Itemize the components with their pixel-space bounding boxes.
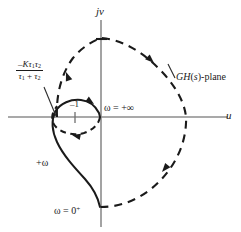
gh-plane-label: GH(s)-plane	[176, 72, 226, 82]
omega-positive-label: +ω	[36, 158, 48, 168]
arrowhead-arc-lower-right	[159, 163, 170, 174]
crossing-denominator-tau1-sub: 1	[22, 76, 25, 82]
crossing-denominator-tau2-sub: 2	[38, 76, 41, 82]
crossing-numerator: –Kτ1τ2	[16, 60, 43, 71]
crossing-numerator-tau2-sub: 2	[38, 63, 41, 69]
dashed-inner-loop	[52, 106, 100, 134]
nyquist-plot-canvas	[0, 0, 241, 232]
omega-zero-plus-text: ω = 0	[54, 205, 76, 216]
horizontal-axis-label: u	[226, 110, 232, 121]
gh-plane-suffix: -plane	[201, 71, 226, 82]
gh-plane-prefix: GH	[176, 71, 190, 82]
plane-leader-line	[168, 64, 175, 78]
solid-omega-branch	[53, 100, 100, 207]
omega-zero-plus-label: ω = 0+	[54, 206, 80, 216]
omega-infinity-label: ω = +∞	[104, 103, 134, 113]
crossing-denominator-plus: +	[27, 71, 32, 81]
crossing-denominator: τ1 + τ2	[16, 71, 43, 81]
nyquist-figure: jv u ω = +∞ ω = 0+ +ω –1 GH(s)-plane –Kτ…	[0, 0, 241, 232]
crossing-leader-line	[44, 87, 56, 116]
arrowhead-loop-bottom	[71, 132, 81, 140]
omega-zero-plus-superscript: +	[76, 205, 80, 213]
vertical-axis-label: jv	[96, 6, 104, 17]
axis-crossing-value-label: –Kτ1τ2 τ1 + τ2	[16, 60, 43, 82]
axes-group	[8, 20, 228, 227]
large-dashed-arc	[57, 38, 186, 207]
critical-point-label: –1	[70, 100, 79, 109]
crossing-numerator-prefix: –K	[18, 59, 29, 69]
